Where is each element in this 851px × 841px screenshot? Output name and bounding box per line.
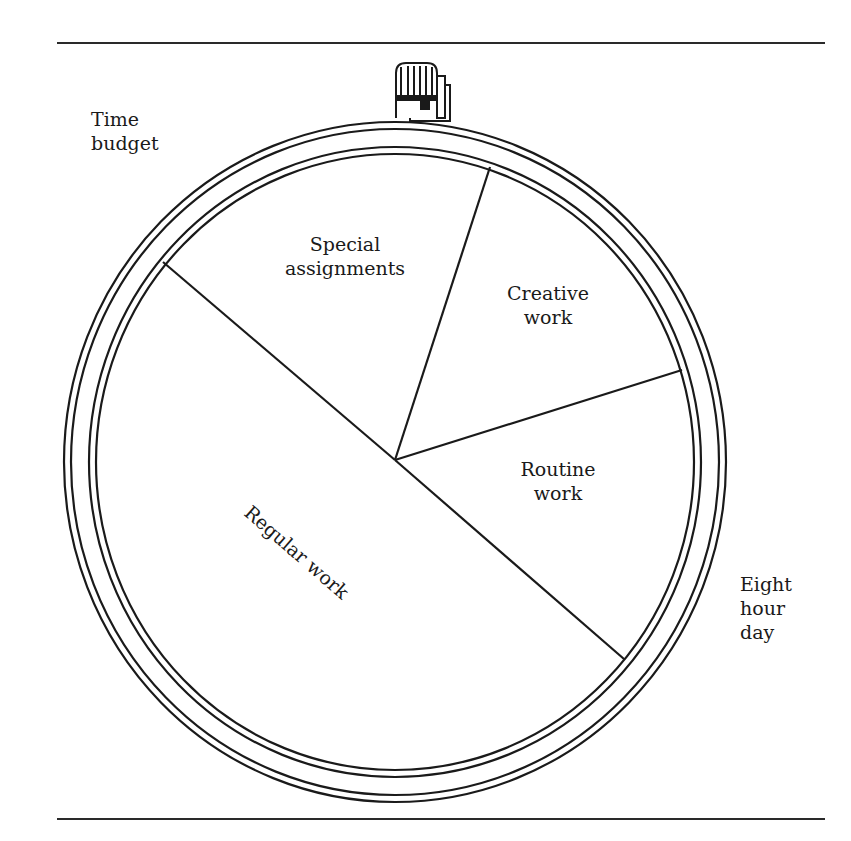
time-budget-label: Time budget (91, 107, 159, 155)
eight-hour-day-label: Eight hour day (740, 572, 792, 644)
slice-label-routine-work: Routine work (498, 457, 618, 505)
stopwatch-rings (64, 122, 726, 802)
slice-label-creative-work: Creative work (488, 281, 608, 329)
stopwatch-crown-icon (396, 63, 450, 121)
slice-label-special-assignments: Special assignments (262, 232, 428, 280)
